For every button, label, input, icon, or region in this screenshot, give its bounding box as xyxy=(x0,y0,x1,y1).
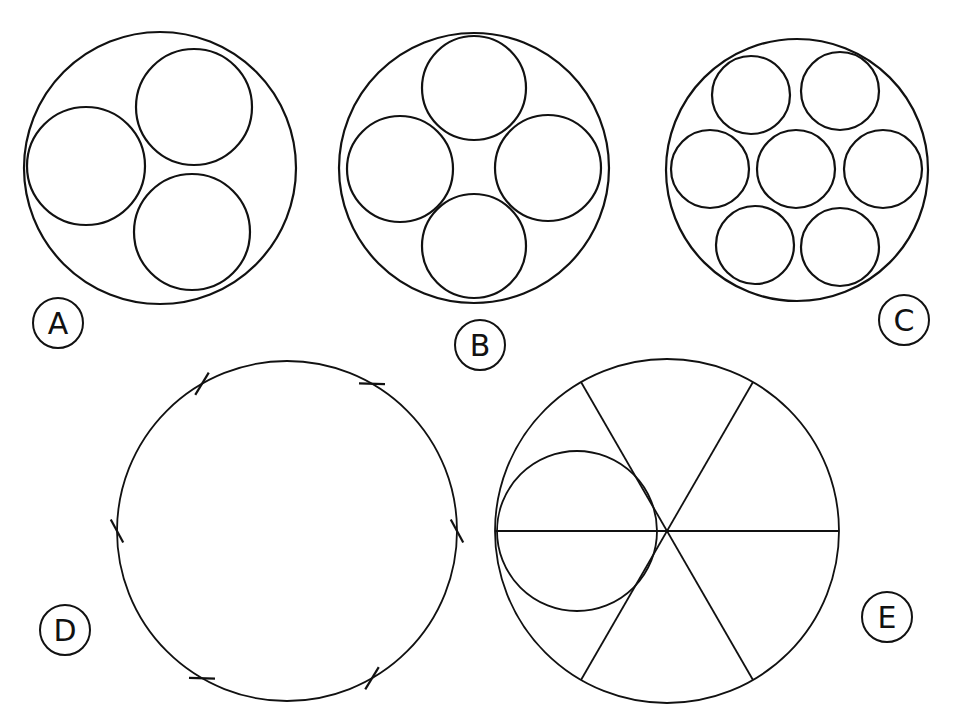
panel-c-inner-circle xyxy=(801,208,879,286)
panel-e: E xyxy=(495,359,912,703)
panel-a-label: A xyxy=(33,298,83,348)
panel-b-inner-circle xyxy=(422,194,526,298)
panel-d-label-text: D xyxy=(53,613,76,648)
panel-c: C xyxy=(666,39,929,345)
panel-c-inner-circle xyxy=(801,52,879,130)
panel-e-label-text: E xyxy=(878,600,897,635)
panel-b: B xyxy=(339,33,609,370)
panel-b-inner-circle xyxy=(422,36,526,140)
panel-c-inner-circle xyxy=(671,130,749,208)
panel-c-inner-circle xyxy=(712,56,790,134)
panel-b-label-text: B xyxy=(470,328,491,363)
panel-a-inner-circle xyxy=(134,174,250,290)
panel-a-outer-circle xyxy=(24,32,296,304)
panel-d-tick-mark xyxy=(359,383,385,384)
panel-d-circle xyxy=(117,361,457,701)
panel-b-inner-circle xyxy=(347,116,453,222)
panel-a-inner-circle xyxy=(27,107,145,225)
panel-d-tick-mark xyxy=(195,373,209,395)
panel-b-outer-circle xyxy=(339,33,609,303)
panel-a-label-text: A xyxy=(48,306,69,341)
panel-d-label: D xyxy=(40,605,90,655)
panel-a-inner-circle xyxy=(136,49,252,165)
panel-c-outer-circle xyxy=(666,39,928,301)
panel-d-tick-mark xyxy=(365,667,379,689)
panel-c-label-text: C xyxy=(894,303,915,338)
panel-e-label: E xyxy=(862,592,912,642)
panel-c-inner-circle xyxy=(757,130,835,208)
panel-d-ticks xyxy=(111,373,463,690)
panel-a: A xyxy=(24,32,296,348)
panel-b-inner-circle xyxy=(495,115,601,221)
panel-d-tick-mark xyxy=(189,678,215,679)
panel-b-label: B xyxy=(455,320,505,370)
panel-c-label: C xyxy=(879,295,929,345)
construction-diagram: A B C D xyxy=(0,0,955,726)
panel-c-inner-circle xyxy=(844,130,922,208)
panel-d: D xyxy=(40,361,463,701)
panel-c-inner-circle xyxy=(716,206,794,284)
panel-e-diameters xyxy=(495,382,839,680)
